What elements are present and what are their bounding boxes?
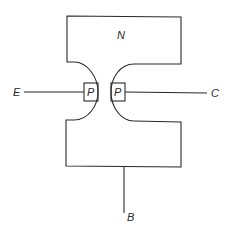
collector-terminal-label: C xyxy=(211,87,219,99)
emitter-p-label: P xyxy=(87,86,95,98)
collector-lead xyxy=(125,92,207,93)
transistor-diagram: N P P E C B xyxy=(0,0,230,231)
collector-p-label: P xyxy=(114,86,122,98)
n-region-label: N xyxy=(117,29,125,41)
base-terminal-label: B xyxy=(127,211,134,223)
emitter-terminal-label: E xyxy=(13,86,21,98)
